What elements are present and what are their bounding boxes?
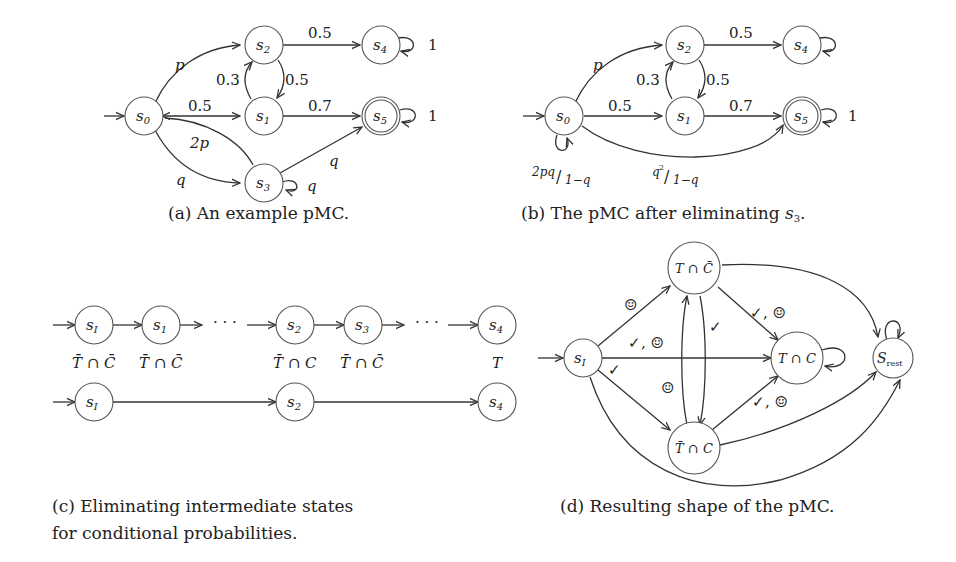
state-s2: s2 [245, 26, 283, 64]
label-2p: 2p [189, 134, 210, 152]
state-sI: sI [75, 306, 113, 344]
label-s2-s1: 0.5 [706, 71, 730, 89]
edge-sI-rest [590, 377, 900, 486]
edge-s2-s1 [698, 60, 705, 98]
svg-text:2pq: 2pq [531, 165, 555, 179]
label-s0-s1: 0.5 [608, 97, 632, 115]
label-selfloop-s4: 1 [428, 36, 438, 54]
label-s2-s4: 0.5 [308, 24, 332, 42]
edge-top-rest [722, 264, 878, 337]
figure-canvas: s0 s1 s2 s3 s4 s5 p 0.5 2p q 0.3 0.5 0. [0, 0, 956, 562]
state-s0: s0 [125, 97, 163, 135]
label-s1-s2: 0.3 [636, 71, 660, 89]
caption-a: (a) An example pMC. [168, 203, 349, 223]
label-sI-top: ☺ [624, 296, 637, 314]
selfloop-rest [885, 321, 900, 340]
ellipsis-1: · · · [213, 313, 237, 331]
edge-s2-s1 [277, 60, 284, 98]
state-S-rest: Srest [873, 338, 913, 378]
label-bot-top: ☺ [661, 379, 674, 397]
panel-c-intermediate-elimination: · · · · · · sI s1 s2 s3 s4 T̄ ∩ C̄ T̄ ∩ … [52, 306, 516, 543]
state-s2: s2 [666, 26, 704, 64]
svg-text:T ∩ C: T ∩ C [778, 351, 816, 366]
label-s2-s1: 0.5 [285, 71, 309, 89]
state-s1: s1 [142, 306, 180, 344]
label-q-selfloop-s3: q [307, 177, 317, 195]
svg-text:T ∩ C̄: T ∩ C̄ [675, 261, 713, 276]
label-bot-mid: ✓, ☺ [752, 393, 788, 411]
caption-d: (d) Resulting shape of the pMC. [560, 496, 834, 516]
edge-s3-s5 [280, 127, 362, 173]
label-q-s0-s3: q [176, 171, 186, 189]
state-s3: s3 [344, 306, 382, 344]
svg-text:/: / [664, 167, 670, 186]
panel-a-example-pmc: s0 s1 s2 s3 s4 s5 p 0.5 2p q 0.3 0.5 0. [104, 24, 438, 223]
selfloop-s4 [820, 37, 835, 51]
annotation-s3: T̄ ∩ C̄ [340, 354, 384, 372]
state-sI: sI [564, 339, 602, 377]
selfloop-s3 [282, 181, 297, 192]
state-T-and-not-C: T ∩ C̄ [668, 242, 720, 294]
label-s1-s2: 0.3 [216, 71, 240, 89]
caption-c-line2: for conditional probabilities. [52, 523, 297, 543]
annotation-s2: T̄ ∩ C [273, 354, 317, 372]
panel-d-resulting-shape: sI T ∩ C̄ T ∩ C T̄ ∩ C Srest ☺ ✓, ☺ ✓ ☺ … [538, 242, 913, 516]
state-s2: s2 [276, 306, 314, 344]
label-top-bot: ✓ [709, 318, 722, 336]
caption-c-line1: (c) Eliminating intermediate states [52, 496, 353, 516]
edge-s1-s2 [245, 62, 252, 99]
label-q-s3-s5: q [329, 152, 339, 170]
label-selfloop-s5: 1 [848, 107, 858, 125]
state-s4: s4 [362, 26, 400, 64]
annotation-s4: T [492, 354, 503, 372]
selfloop-s5 [400, 109, 415, 123]
state-s5-accepting: s5 [362, 97, 400, 135]
state-sI: sI [75, 383, 113, 421]
state-s4: s4 [783, 26, 821, 64]
panel-b-after-elimination: s0 s1 s2 s4 s5 p 0.5 0.3 0.5 0.5 0.7 1 2… [521, 24, 858, 224]
state-s5-accepting: s5 [783, 97, 821, 135]
label-selfloop-s5: 1 [428, 107, 438, 125]
state-T-and-C: T ∩ C [771, 332, 823, 384]
state-s2: s2 [276, 383, 314, 421]
state-s4: s4 [478, 383, 516, 421]
svg-text:1−q: 1−q [565, 173, 591, 187]
label-s2-s4: 0.5 [729, 24, 753, 42]
state-s1: s1 [666, 97, 704, 135]
selfloop-s0 [556, 135, 568, 150]
edge-bot-top [682, 296, 687, 425]
label-s0-s5-fraction: q 2 / 1−q [652, 163, 699, 187]
selfloop-mid [822, 348, 845, 367]
state-s4: s4 [478, 306, 516, 344]
state-s1: s1 [245, 97, 283, 135]
svg-text:T̄ ∩ C: T̄ ∩ C [675, 441, 713, 456]
edge-top-bot [700, 296, 705, 425]
label-selfloop-s0-fraction: 2pq / 1−q [531, 165, 591, 187]
state-s0: s0 [545, 97, 583, 135]
label-s1-s5: 0.7 [308, 97, 332, 115]
label-sI-mid: ✓, ☺ [628, 334, 664, 352]
label-p: p [175, 56, 185, 74]
svg-text:1−q: 1−q [673, 173, 699, 187]
edge-sI-bot [598, 370, 670, 430]
svg-text:/: / [556, 167, 562, 186]
edge-s1-s2 [666, 62, 673, 99]
label-s1-s5: 0.7 [729, 97, 753, 115]
label-sI-bot: ✓ [608, 361, 621, 379]
label-s0-s1: 0.5 [188, 97, 212, 115]
ellipsis-2: · · · [415, 313, 439, 331]
annotation-sI: T̄ ∩ C̄ [72, 354, 116, 372]
state-s3: s3 [245, 164, 283, 202]
caption-b: (b) The pMC after eliminating s3. [521, 203, 805, 224]
annotation-s1: T̄ ∩ C̄ [139, 354, 183, 372]
selfloop-s5 [821, 109, 836, 123]
state-not-T-and-C: T̄ ∩ C [668, 422, 720, 474]
label-p: p [593, 56, 603, 74]
label-top-mid: ✓, ☺ [750, 304, 786, 322]
